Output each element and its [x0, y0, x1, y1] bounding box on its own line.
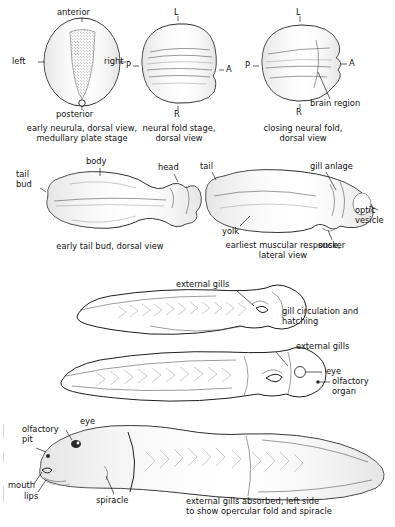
label-posterior: posterior [56, 110, 93, 120]
label-tail-bud: tail bud [16, 170, 32, 189]
label-lips: lips [24, 492, 38, 502]
label-brain-region: brain region [310, 99, 360, 109]
caption-gills-absorbed-line1: external gills absorbed, left side [186, 496, 391, 506]
illustration-canvas [0, 0, 395, 527]
scan-edge-mark-bottom [3, 486, 4, 502]
label-external-gills-hatching: external gills [176, 280, 229, 290]
embryo-early-tail-bud [40, 168, 201, 228]
scan-edge-mark-top [3, 424, 4, 438]
label-r-neural-fold: R [174, 110, 180, 120]
caption-muscular-response-line2: lateral view [208, 250, 358, 260]
label-right: right [104, 57, 124, 67]
scan-edge-mark-mid [3, 452, 4, 462]
label-eye-tadpole: eye [80, 417, 95, 427]
caption-closing-fold-line2: dorsal view [243, 133, 363, 143]
label-r-closing-fold: R [296, 108, 302, 118]
caption-gill-circulation-line1: gill circulation and [282, 306, 395, 316]
label-a-neural-fold: A [226, 65, 232, 75]
label-l-neural-fold: L [174, 8, 179, 18]
label-tail: tail [200, 162, 213, 172]
label-p-closing-fold: P [245, 61, 250, 71]
label-a-closing-fold: A [349, 59, 355, 69]
larva-gills-absorbed [34, 426, 384, 501]
figure-plate: anterior left right posterior early neur… [0, 0, 395, 527]
embryo-neural-fold [133, 16, 224, 110]
label-optic-vesicle: optic vesicle [355, 206, 384, 225]
caption-gills-absorbed-line2: to show opercular fold and spiracle [186, 506, 391, 516]
label-anterior: anterior [57, 8, 90, 18]
label-head: head [158, 163, 179, 173]
label-l-closing-fold: L [296, 8, 301, 18]
caption-closing-fold-line1: closing neural fold, [243, 123, 363, 133]
label-olfactory-organ: olfactory organ [332, 377, 369, 396]
label-spiracle: spiracle [96, 496, 128, 506]
caption-gill-circulation-line2: hatching [282, 316, 395, 326]
caption-neural-fold-line1: neural fold stage, [123, 123, 235, 133]
larva-external-gills [61, 347, 330, 401]
label-yolk: yolk [222, 227, 239, 237]
caption-muscular-response-line1: earliest muscular response, [208, 240, 358, 250]
label-body: body [86, 157, 107, 167]
larva-gill-circulation [77, 285, 306, 334]
label-gill-anlage: gill anlage [310, 162, 353, 172]
caption-neural-fold-line2: dorsal view [123, 133, 235, 143]
label-mouth: mouth [8, 481, 35, 491]
caption-early-tail-bud: early tail bud, dorsal view [40, 241, 180, 251]
label-p-neural-fold: P [126, 61, 131, 71]
label-external-gills-larva: external gills [296, 342, 349, 352]
label-olfactory-pit: olfactory pit [22, 425, 59, 444]
label-left: left [12, 57, 25, 67]
embryo-closing-neural-fold [253, 16, 347, 108]
